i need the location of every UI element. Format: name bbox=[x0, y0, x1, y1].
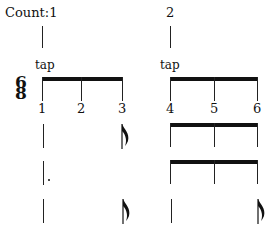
time-signature-bottom: 8 bbox=[15, 88, 27, 99]
beat-stem-3 bbox=[122, 77, 123, 101]
beam-group-1 bbox=[42, 77, 123, 81]
row1-eighth-stem-4 bbox=[170, 123, 171, 147]
time-signature: 6 8 bbox=[15, 77, 27, 99]
count-label-2: 2 bbox=[166, 6, 174, 20]
beat-stem-1 bbox=[42, 77, 43, 101]
beat-3: 3 bbox=[118, 102, 126, 116]
row2-eighth-stem-5 bbox=[214, 160, 215, 184]
count-1: 1 bbox=[49, 5, 57, 20]
row1-eighth-stem-5 bbox=[214, 123, 215, 147]
row1-eighth-note-icon bbox=[121, 123, 133, 150]
count-prefix: Count: bbox=[5, 5, 49, 20]
beat-5: 5 bbox=[210, 102, 218, 116]
beat-stem-2 bbox=[81, 77, 82, 101]
beat-1: 1 bbox=[38, 102, 46, 116]
row3-quarter-stem-1 bbox=[43, 199, 44, 223]
row3-eighth-note-icon-2 bbox=[257, 198, 269, 225]
row2-dotted-quarter-stem bbox=[43, 161, 44, 185]
count-label-1: Count:1 bbox=[5, 6, 57, 20]
beat-6: 6 bbox=[253, 102, 261, 116]
row1-eighth-stem-6 bbox=[257, 123, 258, 147]
row3-eighth-note-icon-1 bbox=[122, 198, 134, 225]
beat-2: 2 bbox=[77, 102, 85, 116]
tap-label-2: tap bbox=[160, 58, 180, 72]
beat-stem-4 bbox=[170, 77, 171, 101]
row2-eighth-stem-4 bbox=[170, 160, 171, 184]
beat-stem-5 bbox=[214, 77, 215, 101]
tap-label-1: tap bbox=[35, 58, 55, 72]
row1-quarter-stem bbox=[43, 124, 44, 148]
row2-dot-icon bbox=[48, 179, 50, 181]
count-stem-1 bbox=[42, 26, 43, 48]
count-stem-2 bbox=[170, 26, 171, 48]
beat-stem-6 bbox=[257, 77, 258, 101]
beat-4: 4 bbox=[166, 102, 174, 116]
row2-eighth-stem-6 bbox=[257, 160, 258, 184]
row3-quarter-stem-2 bbox=[171, 199, 172, 223]
